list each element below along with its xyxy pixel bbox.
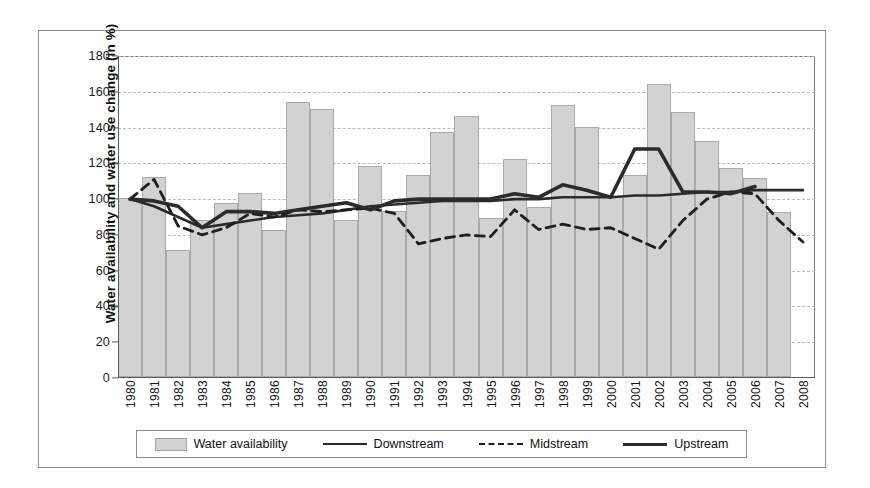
chart-legend: Water availabilityDownstreamMidstreamUps… (136, 430, 747, 458)
legend-dashed-line-icon (479, 443, 523, 445)
x-tick-label-2000: 2000 (605, 380, 619, 408)
x-tick-label-1985: 1985 (244, 380, 258, 408)
x-tick-label-1997: 1997 (533, 380, 547, 408)
y-axis-title: Water availability and water use change … (103, 0, 118, 374)
x-tick-label-1991: 1991 (388, 380, 402, 408)
x-tick-label-1995: 1995 (485, 380, 499, 408)
legend-item-downstream[interactable]: Downstream (323, 437, 444, 451)
x-tick-label-1983: 1983 (196, 380, 210, 408)
x-tick-label-1992: 1992 (412, 380, 426, 408)
x-tick-label-1989: 1989 (340, 380, 354, 408)
legend-label: Upstream (674, 437, 728, 451)
y-axis-line (118, 56, 119, 378)
x-tick-label-2002: 2002 (653, 380, 667, 408)
x-tick-label-1994: 1994 (461, 380, 475, 408)
x-tick-label-2003: 2003 (677, 380, 691, 408)
x-tick-label-1986: 1986 (268, 380, 282, 408)
x-tick-label-2007: 2007 (773, 380, 787, 408)
x-tick-label-2005: 2005 (725, 380, 739, 408)
legend-label: Water availability (194, 437, 288, 451)
x-tick-label-1998: 1998 (557, 380, 571, 408)
legend-label: Downstream (374, 437, 444, 451)
legend-item-upstream[interactable]: Upstream (623, 437, 728, 451)
x-axis-labels: 1980198119821983198419851986198719881989… (118, 380, 815, 428)
legend-bar-swatch-icon (155, 438, 187, 451)
line-midstream (130, 179, 803, 249)
x-tick-label-2008: 2008 (797, 380, 811, 408)
x-tick-label-1984: 1984 (220, 380, 234, 408)
x-tick-label-1999: 1999 (581, 380, 595, 408)
plot-area: 020406080100120140160180 Water availabil… (118, 56, 815, 378)
legend-label: Midstream (530, 437, 588, 451)
x-tick-label-2004: 2004 (701, 380, 715, 408)
x-tick-label-1980: 1980 (124, 380, 138, 408)
x-tick-label-1996: 1996 (509, 380, 523, 408)
legend-solid-line-icon (323, 443, 367, 445)
legend-item-water-availability[interactable]: Water availability (155, 437, 288, 451)
x-tick-label-1987: 1987 (292, 380, 306, 408)
x-tick-label-2001: 2001 (629, 380, 643, 408)
y-tick-mark-0 (112, 377, 118, 378)
line-downstream (130, 190, 803, 228)
legend-item-midstream[interactable]: Midstream (479, 437, 588, 451)
line-series-group (118, 56, 815, 378)
x-tick-label-2006: 2006 (749, 380, 763, 408)
x-tick-label-1981: 1981 (148, 380, 162, 408)
x-tick-label-1993: 1993 (436, 380, 450, 408)
x-tick-label-1988: 1988 (316, 380, 330, 408)
x-axis-line (118, 377, 815, 378)
chart-figure: 020406080100120140160180 Water availabil… (0, 0, 870, 488)
line-upstream (130, 149, 755, 228)
x-tick-label-1982: 1982 (172, 380, 186, 408)
legend-thick-line-icon (623, 443, 667, 446)
x-tick-label-1990: 1990 (364, 380, 378, 408)
